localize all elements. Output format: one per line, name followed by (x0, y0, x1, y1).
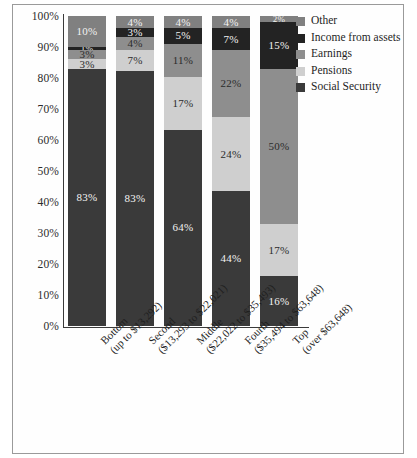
bar-segment-value: 10% (77, 26, 98, 37)
bar-segment-value: 50% (269, 141, 290, 152)
bar-segment[interactable]: 4% (116, 37, 154, 49)
bar-segment[interactable]: 16% (260, 276, 298, 326)
y-tick-80: 80% (17, 73, 59, 83)
bar-column[interactable]: 2%15%50%17%16% (260, 16, 298, 326)
bar-segment-value: 7% (127, 55, 142, 66)
bar-segment-value: 16% (269, 296, 290, 307)
bar-segment[interactable]: 4% (116, 16, 154, 28)
legend-item[interactable]: Other (296, 14, 404, 27)
legend-swatch-icon (296, 17, 305, 26)
bar-segment-value: 17% (173, 98, 194, 109)
chart-legend: OtherIncome from assetsEarningsPensionsS… (296, 14, 404, 97)
bar-segment-value: 4% (175, 17, 190, 28)
bar-segment-value: 4% (127, 38, 142, 49)
legend-swatch-icon (296, 34, 305, 43)
y-tick-50: 50% (17, 166, 59, 176)
bar-segment[interactable]: 10% (68, 16, 106, 47)
bar-segment[interactable]: 15% (260, 22, 298, 69)
bar-segment-value: 17% (269, 245, 290, 256)
bar-segment-value: 22% (221, 78, 242, 89)
y-tick-20: 20% (17, 259, 59, 269)
bar-segment[interactable]: 17% (164, 77, 202, 129)
legend-item[interactable]: Social Security (296, 80, 404, 93)
y-tick-10: 10% (17, 290, 59, 300)
bar-segment[interactable]: 11% (164, 44, 202, 78)
bar-segment[interactable]: 24% (212, 117, 250, 191)
y-tick-30: 30% (17, 228, 59, 238)
bar-segment[interactable]: 4% (164, 16, 202, 28)
y-tick-100: 100% (17, 11, 59, 21)
chart-figure: 100%90%80%70%60%50%40%30%20%10%0% 10%1%3… (0, 0, 417, 458)
bar-segment[interactable]: 83% (68, 69, 106, 326)
bar-segment[interactable]: 44% (212, 191, 250, 326)
legend-item[interactable]: Pensions (296, 64, 404, 77)
bar-segment[interactable]: 5% (164, 28, 202, 43)
legend-swatch-icon (296, 50, 305, 59)
bar-segment-value: 44% (221, 253, 242, 264)
legend-label: Income from assets (311, 31, 400, 44)
bar-segment[interactable]: 3% (116, 28, 154, 37)
bar-segment-value: 3% (79, 59, 94, 68)
bar-segment-value: 3% (127, 28, 142, 37)
bar-segment[interactable]: 7% (212, 28, 250, 49)
x-axis-line (63, 327, 309, 328)
bar-segment-value: 3% (79, 50, 94, 59)
bar-segment[interactable]: 3% (68, 59, 106, 68)
bar-segment-value: 5% (175, 30, 190, 41)
bar-segment-value: 64% (173, 222, 194, 233)
y-tick-70: 70% (17, 104, 59, 114)
y-tick-90: 90% (17, 42, 59, 52)
bar-segment[interactable]: 50% (260, 69, 298, 224)
legend-swatch-icon (296, 67, 305, 76)
bar-segment[interactable]: 17% (260, 224, 298, 277)
bar-segment[interactable]: 3% (68, 50, 106, 59)
y-tick-60: 60% (17, 135, 59, 145)
bar-segment-value: 7% (223, 34, 238, 45)
bar-column[interactable]: 4%7%22%24%44% (212, 16, 250, 326)
bar-segment-value: 11% (173, 55, 193, 66)
bar-segment[interactable]: 83% (116, 71, 154, 326)
bar-segment-value: 4% (223, 17, 238, 28)
bar-segment-value: 83% (125, 193, 146, 204)
bar-segment-value: 4% (127, 17, 142, 28)
bar-segment-value: 24% (221, 149, 242, 160)
y-tick-0: 0% (17, 321, 59, 331)
y-tick-40: 40% (17, 197, 59, 207)
bar-segment[interactable]: 22% (212, 50, 250, 118)
bar-segment[interactable]: 7% (116, 50, 154, 71)
legend-label: Social Security (311, 80, 381, 93)
legend-swatch-icon (296, 83, 305, 92)
bar-column[interactable]: 10%1%3%3%83% (68, 16, 106, 326)
legend-item[interactable]: Income from assets (296, 31, 404, 44)
legend-label: Pensions (311, 64, 352, 77)
plot-area: 10%1%3%3%83%4%3%4%7%83%4%5%11%17%64%4%7%… (63, 16, 306, 326)
bar-segment[interactable]: 4% (212, 16, 250, 28)
legend-label: Other (311, 14, 337, 27)
y-axis-tick-labels: 100%90%80%70%60%50%40%30%20%10%0% (14, 16, 59, 326)
bar-column[interactable]: 4%3%4%7%83% (116, 16, 154, 326)
legend-label: Earnings (311, 47, 352, 60)
bar-segment-value: 83% (77, 192, 98, 203)
bar-segment[interactable]: 64% (164, 130, 202, 326)
bar-column[interactable]: 4%5%11%17%64% (164, 16, 202, 326)
legend-item[interactable]: Earnings (296, 47, 404, 60)
bar-segment-value: 15% (269, 40, 290, 51)
